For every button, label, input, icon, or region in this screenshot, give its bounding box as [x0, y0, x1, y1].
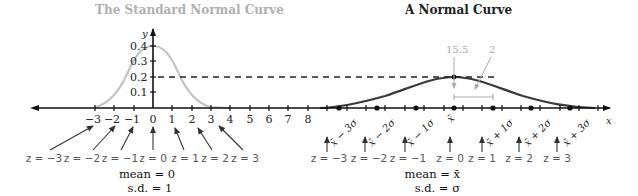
x-tick-label: 2 — [189, 113, 196, 126]
z-label: z = 2 — [201, 152, 229, 164]
x-tick-label: 6 — [266, 113, 273, 126]
x-tick-label: −2 — [104, 113, 120, 126]
z-label: z = 0 — [139, 152, 167, 164]
x-axis-label: x — [606, 115, 612, 126]
z-label: z = −3 — [26, 152, 62, 164]
x-tick-label: −1 — [124, 113, 140, 126]
z-label: z = 1 — [171, 152, 199, 164]
z-label: z = 0 — [436, 152, 464, 164]
sigma-label: x̄ + 1σ — [484, 116, 516, 148]
left-sd-label: s.d. = 1 — [128, 181, 173, 195]
z-label: z = −2 — [64, 152, 100, 164]
sigma-label: x̄ + 3σ — [561, 116, 593, 148]
left-mean-label: mean = 0 — [119, 167, 175, 181]
y-tick-label: 0.1 — [130, 86, 148, 99]
z-label: z = 3 — [231, 152, 259, 164]
normal-curve — [320, 77, 595, 108]
x-tick-label: −3 — [85, 113, 101, 126]
left-z-arrows — [50, 126, 243, 150]
z-label: z = 1 — [468, 152, 496, 164]
right-z-labels: z = −3 z = −2 z = −1 z = 0 z = 1 z = 2 z… — [311, 152, 571, 164]
x-axis-left-arrow — [30, 105, 39, 111]
x-tick-label: 5 — [247, 113, 254, 126]
sigma-label: x̄ − 3σ — [328, 116, 360, 148]
left-title: The Standard Normal Curve — [95, 3, 284, 17]
x-tick-label: 7 — [285, 113, 292, 126]
y-tick-label: 0.4 — [130, 40, 148, 53]
x-tick-labels-left: −3 −2 −1 0 1 2 3 4 5 6 7 8 — [85, 113, 312, 126]
z-label: z = −1 — [102, 152, 138, 164]
y-tick-label: 0.2 — [130, 71, 148, 84]
z-label: z = 3 — [543, 152, 571, 164]
sd-bracket — [454, 94, 493, 100]
sigma-label: x̄ − 1σ — [405, 116, 437, 148]
x-tick-label: 3 — [208, 113, 215, 126]
sigma-label: x̄ + 2σ — [522, 116, 554, 148]
mean-annotation: 15.5 — [446, 44, 468, 55]
x-tick-label: 1 — [169, 113, 176, 126]
sigma-labels: x̄ − 3σ x̄ − 2σ x̄ − 1σ x̄ x̄ + 1σ x̄ + … — [328, 112, 593, 148]
z-label: z = −1 — [390, 152, 426, 164]
x-tick-label: 4 — [227, 113, 234, 126]
z-label: z = −3 — [311, 152, 347, 164]
z-label: z = 2 — [505, 152, 533, 164]
x-tick-label: 0 — [150, 113, 157, 126]
y-tick-label: 0.3 — [130, 55, 148, 68]
sigma-label: x̄ — [445, 112, 457, 124]
sd-annotation: 2 — [489, 44, 495, 55]
normal-curve-diagram: The Standard Normal Curve A Normal Curve… — [0, 0, 638, 196]
sigma-label: x̄ − 2σ — [366, 116, 398, 148]
right-mean-label: mean = x̄ — [405, 167, 461, 181]
z-label: z = −2 — [351, 152, 387, 164]
right-sd-label: s.d. = σ — [415, 181, 461, 195]
x-tick-label: 8 — [305, 113, 312, 126]
right-title: A Normal Curve — [404, 3, 513, 17]
y-axis-label: y — [141, 28, 148, 39]
left-z-labels: z = −3 z = −2 z = −1 z = 0 z = 1 z = 2 z… — [26, 152, 259, 164]
